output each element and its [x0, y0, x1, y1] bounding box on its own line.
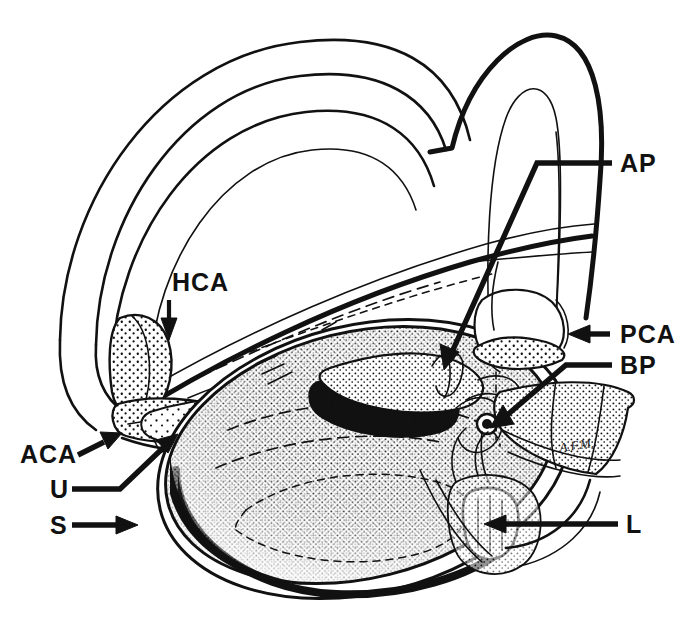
label-u: U	[50, 475, 69, 503]
label-aca: ACA	[20, 440, 77, 468]
inner-ear-figure: HCA AP PCA BP ACA U S L A.F.M.	[0, 0, 690, 644]
label-pca: PCA	[620, 320, 676, 348]
label-s: S	[50, 511, 68, 539]
label-bp: BP	[620, 351, 657, 379]
label-l: L	[626, 510, 642, 538]
labyrinth-drawing: HCA AP PCA BP ACA U S L A.F.M.	[0, 0, 690, 644]
label-hca: HCA	[172, 268, 229, 296]
label-ap: AP	[620, 149, 657, 177]
